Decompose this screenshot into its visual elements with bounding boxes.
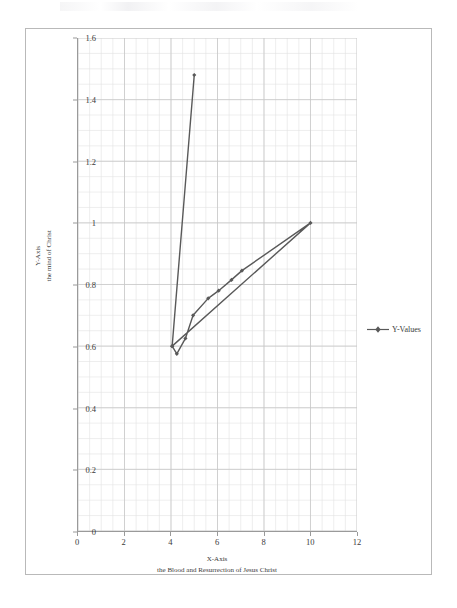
x-tick-mark xyxy=(170,532,171,536)
legend-marker-icon xyxy=(367,325,389,334)
x-tick-mark xyxy=(77,532,78,536)
x-tick-label: 12 xyxy=(337,538,377,547)
y-tick-mark xyxy=(73,285,77,286)
y-axis-title-sub: the mind of Christ xyxy=(44,181,55,331)
y-tick-mark xyxy=(73,161,77,162)
scan-artifact xyxy=(60,2,400,11)
x-axis-title-main: X-Axis xyxy=(77,554,357,565)
y-axis-title-main: Y-Axis xyxy=(33,181,44,331)
x-tick-mark xyxy=(217,532,218,536)
y-tick-mark xyxy=(73,223,77,224)
x-tick-mark xyxy=(124,532,125,536)
x-tick-label: 2 xyxy=(104,538,144,547)
y-axis-title: Y-Axis the mind of Christ xyxy=(33,181,55,331)
x-axis-title: X-Axis the Blood and Resurrection of Jes… xyxy=(77,554,357,576)
y-tick-mark xyxy=(73,38,77,39)
x-tick-label: 8 xyxy=(244,538,284,547)
x-tick-mark xyxy=(310,532,311,536)
y-tick-mark xyxy=(73,408,77,409)
chart-frame: 00.20.40.60.811.21.41.6 024681012 X-Axis… xyxy=(25,28,432,575)
x-axis-title-sub: the Blood and Resurrection of Jesus Chri… xyxy=(77,565,357,576)
x-tick-label: 6 xyxy=(197,538,237,547)
plot-area xyxy=(77,38,357,532)
y-tick-mark xyxy=(73,99,77,100)
x-tick-mark xyxy=(264,532,265,536)
x-tick-label: 0 xyxy=(57,538,97,547)
x-tick-mark xyxy=(357,532,358,536)
data-series-y-values[interactable] xyxy=(78,38,357,531)
x-tick-label: 4 xyxy=(150,538,190,547)
y-tick-mark xyxy=(73,346,77,347)
y-tick-mark xyxy=(73,470,77,471)
legend-label-y-values: Y-Values xyxy=(392,326,421,334)
x-tick-label: 10 xyxy=(290,538,330,547)
chart-legend[interactable]: Y-Values xyxy=(367,325,421,334)
